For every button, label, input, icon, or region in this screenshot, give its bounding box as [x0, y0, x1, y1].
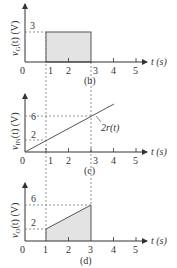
x-tick-5: 5: [133, 155, 138, 166]
x-tick-3: 3: [88, 244, 93, 255]
panel-caption: (d): [80, 255, 92, 267]
x-tick-0: 0: [20, 65, 25, 76]
y-tick-6: 6: [31, 193, 36, 204]
x-tick-5: 5: [133, 65, 138, 76]
x-tick-4: 4: [111, 244, 116, 255]
x-tick-4: 4: [111, 155, 116, 166]
panel-d: 6 2 0 1 2 3 4 5 t (s) (d) vO(t) (V): [9, 183, 168, 267]
x-tick-2: 2: [66, 65, 71, 76]
x-tick-1: 1: [48, 155, 53, 166]
x-tick-5: 5: [133, 244, 138, 255]
x-tick-2: 2: [66, 155, 71, 166]
y-tick-2: 2: [31, 217, 36, 228]
x-tick-4: 4: [111, 65, 116, 76]
y-axis-label: vO(t) (V): [9, 203, 22, 238]
y-tick-3: 3: [30, 20, 35, 31]
figure-canvas: 3 0 1 2 3 4 5 t (s) (b) vG(t) (V) 6 2 2r…: [0, 0, 177, 268]
x-axis-label: t (s): [151, 56, 168, 68]
x-tick-0: 0: [20, 155, 25, 166]
panel-c: 6 2 2r(t) 0 1 2 3 4 5 t (s) (c) vIN(t) (…: [9, 94, 168, 177]
panel-caption: (b): [84, 75, 96, 87]
gate-pulse-area: [46, 32, 91, 62]
ramp-annotation: 2r(t): [101, 122, 120, 134]
x-axis-label: t (s): [151, 235, 168, 247]
x-tick-1: 1: [48, 65, 53, 76]
y-axis-label: vG(t) (V): [9, 21, 22, 56]
x-tick-0: 0: [20, 244, 25, 255]
x-axis-label: t (s): [151, 146, 168, 158]
output-area: [46, 205, 91, 241]
x-tick-2: 2: [66, 244, 71, 255]
panel-caption: (c): [84, 165, 95, 177]
y-tick-6: 6: [31, 111, 36, 122]
y-axis-label: vIN(t) (V): [9, 112, 22, 150]
panel-b: 3 0 1 2 3 4 5 t (s) (b) vG(t) (V): [9, 4, 168, 87]
y-tick-2: 2: [31, 129, 36, 140]
x-tick-1: 1: [43, 244, 48, 255]
